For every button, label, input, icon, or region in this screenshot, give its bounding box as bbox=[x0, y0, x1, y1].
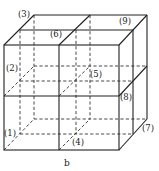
label-5: (5) bbox=[90, 69, 102, 79]
label-7: (7) bbox=[142, 123, 154, 133]
label-4: (4) bbox=[72, 137, 84, 147]
figure-caption: b bbox=[64, 158, 70, 168]
cube-diagram: (1) (2) (3) (4) (5) (6) (7) (8) (9) b bbox=[0, 0, 159, 171]
hidden-edges bbox=[4, 15, 147, 150]
label-2: (2) bbox=[6, 63, 18, 73]
label-6: (6) bbox=[50, 29, 62, 39]
label-9: (9) bbox=[119, 16, 131, 26]
label-3: (3) bbox=[18, 9, 30, 19]
visible-edges bbox=[4, 15, 147, 150]
label-8: (8) bbox=[120, 92, 132, 102]
label-1: (1) bbox=[4, 128, 16, 138]
